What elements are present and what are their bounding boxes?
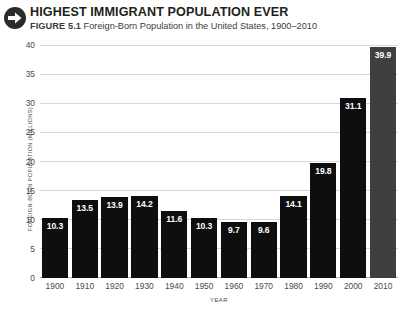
bar: 14.2 xyxy=(131,196,157,278)
page-title: HIGHEST IMMIGRANT POPULATION EVER xyxy=(30,5,288,19)
bar-series: 10.313.513.914.211.610.39.79.614.119.831… xyxy=(40,46,398,278)
arrow-right-circle-icon xyxy=(4,7,26,29)
bar-value-label: 39.9 xyxy=(370,50,396,60)
bar-slot: 13.5 xyxy=(70,46,100,278)
y-axis-tick-label: 40 xyxy=(26,40,35,50)
x-axis-tick-label: 2010 xyxy=(368,281,398,291)
bar-value-label: 13.5 xyxy=(72,203,98,213)
bar: 10.3 xyxy=(42,218,68,278)
bar: 10.3 xyxy=(191,218,217,278)
bar: 19.8 xyxy=(310,163,336,278)
bar-chart: FOREIGN-BORN POPULATION (MILLIONS) 40353… xyxy=(0,36,410,311)
bar: 13.5 xyxy=(72,200,98,278)
x-axis-tick-label: 1980 xyxy=(279,281,309,291)
x-axis-title: YEAR xyxy=(40,297,398,303)
x-axis-tick-label: 1950 xyxy=(189,281,219,291)
x-axis-tick-label: 2000 xyxy=(338,281,368,291)
x-axis-tick-label: 1990 xyxy=(308,281,338,291)
bar-slot: 14.2 xyxy=(129,46,159,278)
bar-value-label: 9.7 xyxy=(221,225,247,235)
bar-slot: 13.9 xyxy=(100,46,130,278)
y-axis-tick-label: 5 xyxy=(30,244,35,254)
bar-slot: 11.6 xyxy=(159,46,189,278)
bar: 9.7 xyxy=(221,222,247,278)
bar: 9.6 xyxy=(251,222,277,278)
bar-slot: 9.6 xyxy=(249,46,279,278)
bar: 13.9 xyxy=(101,197,127,278)
x-axis-tick-label: 1960 xyxy=(219,281,249,291)
x-axis-tick-label: 1970 xyxy=(249,281,279,291)
bar-value-label: 10.3 xyxy=(191,221,217,231)
bar-slot: 31.1 xyxy=(338,46,368,278)
x-axis-ticks: 1900191019201930194019501960197019801990… xyxy=(40,281,398,291)
bar-slot: 10.3 xyxy=(40,46,70,278)
bar-slot: 39.9 xyxy=(368,46,398,278)
bar-value-label: 13.9 xyxy=(101,200,127,210)
y-axis-tick-label: 0 xyxy=(30,273,35,283)
x-axis-tick-label: 1910 xyxy=(70,281,100,291)
figure-page: HIGHEST IMMIGRANT POPULATION EVER FIGURE… xyxy=(0,0,410,311)
x-axis-tick-label: 1920 xyxy=(100,281,130,291)
bar: 31.1 xyxy=(340,98,366,278)
bar-value-label: 11.6 xyxy=(161,214,187,224)
figure-number: FIGURE 5.1 xyxy=(30,21,81,31)
bar: 14.1 xyxy=(280,196,306,278)
bar-slot: 9.7 xyxy=(219,46,249,278)
bar-slot: 10.3 xyxy=(189,46,219,278)
y-axis-tick-label: 10 xyxy=(26,215,35,225)
x-axis-tick-label: 1940 xyxy=(159,281,189,291)
bar: 39.9 xyxy=(370,47,396,278)
bar-slot: 19.8 xyxy=(308,46,338,278)
bar-value-label: 10.3 xyxy=(42,221,68,231)
bar-value-label: 14.1 xyxy=(280,199,306,209)
bar-value-label: 31.1 xyxy=(340,101,366,111)
bar-value-label: 19.8 xyxy=(310,166,336,176)
x-axis-tick-label: 1930 xyxy=(129,281,159,291)
bar-value-label: 14.2 xyxy=(131,199,157,209)
bar-value-label: 9.6 xyxy=(251,225,277,235)
x-axis-tick-label: 1900 xyxy=(40,281,70,291)
figure-caption-text: Foreign-Born Population in the United St… xyxy=(84,21,317,31)
bar: 11.6 xyxy=(161,211,187,278)
plot-area: 4035302520151050 10.313.513.914.211.610.… xyxy=(40,46,398,278)
bar-slot: 14.1 xyxy=(279,46,309,278)
figure-header: HIGHEST IMMIGRANT POPULATION EVER FIGURE… xyxy=(0,0,410,36)
y-axis-tick-label: 35 xyxy=(26,69,35,79)
y-axis-tick-label: 20 xyxy=(26,157,35,167)
figure-caption: FIGURE 5.1 Foreign-Born Population in th… xyxy=(30,21,317,31)
y-axis-tick-label: 30 xyxy=(26,98,35,108)
y-axis-tick-label: 15 xyxy=(26,186,35,196)
y-axis-tick-label: 25 xyxy=(26,127,35,137)
